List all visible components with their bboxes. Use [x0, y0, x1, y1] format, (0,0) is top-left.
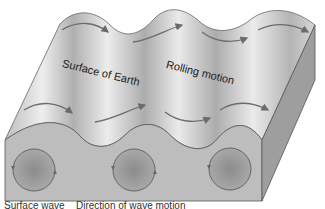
rayleigh-wave-diagram: Surface of Earth Rolling motion Surface … [0, 0, 325, 209]
label-direction-cut: Direction of wave motion [76, 200, 186, 209]
block-illustration [0, 0, 325, 209]
label-surface-wave-cut: Surface wave [4, 200, 65, 209]
